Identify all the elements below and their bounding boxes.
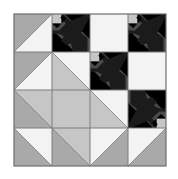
maple-leaf-icon xyxy=(128,14,166,52)
leaf-corner-square xyxy=(52,14,62,24)
quilt-cell-2-0 xyxy=(14,90,52,128)
maple-leaf-icon xyxy=(90,52,128,90)
solid-patch xyxy=(90,14,128,52)
maple-leaf-icon xyxy=(128,90,166,128)
quilt-cell-2-3 xyxy=(128,90,166,128)
quilt-cell-0-3 xyxy=(128,14,166,52)
solid-patch xyxy=(128,52,166,90)
quilt-cell-3-0 xyxy=(14,128,52,166)
leaf-corner-square xyxy=(90,52,100,62)
maple-leaf-icon xyxy=(52,14,90,52)
quilt-cell-0-2 xyxy=(90,14,128,52)
quilt-cell-1-1 xyxy=(52,52,90,90)
quilt-cell-2-2 xyxy=(90,90,128,128)
quilt-cell-1-3 xyxy=(128,52,166,90)
quilt-cell-1-2 xyxy=(90,52,128,90)
quilt-block: Maple leaf quilt block xyxy=(0,0,178,179)
quilt-cell-2-1 xyxy=(52,90,90,128)
quilt-cell-3-2 xyxy=(90,128,128,166)
quilt-cell-3-1 xyxy=(52,128,90,166)
leaf-corner-square xyxy=(128,14,138,24)
quilt-cell-0-1 xyxy=(52,14,90,52)
leaf-corner-square xyxy=(157,119,167,129)
quilt-cell-1-0 xyxy=(14,52,52,90)
quilt-cell-3-3 xyxy=(128,128,166,166)
quilt-cell-0-0 xyxy=(14,14,52,52)
solid-patch xyxy=(52,90,90,128)
